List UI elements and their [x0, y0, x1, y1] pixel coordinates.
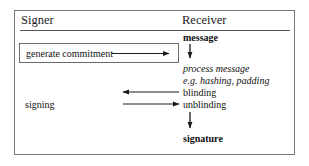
signing-label: signing	[25, 99, 54, 110]
generate-commitment-box: generate commitment	[19, 43, 179, 63]
column-header-receiver: Receiver	[182, 14, 226, 27]
unblinding-label: unblinding	[183, 99, 226, 110]
process-detail-label: e.g. hashing, padding	[183, 75, 269, 86]
process-message-label: process message	[183, 63, 250, 74]
signature-label: signature	[183, 133, 223, 144]
message-label: message	[183, 32, 218, 43]
header-divider-rule	[20, 30, 290, 31]
blinding-label: blinding	[183, 87, 216, 98]
protocol-diagram-frame: Signer Receiver generate commitment sign…	[14, 10, 295, 155]
generate-commitment-label: generate commitment	[26, 48, 113, 59]
column-header-signer: Signer	[21, 14, 54, 27]
